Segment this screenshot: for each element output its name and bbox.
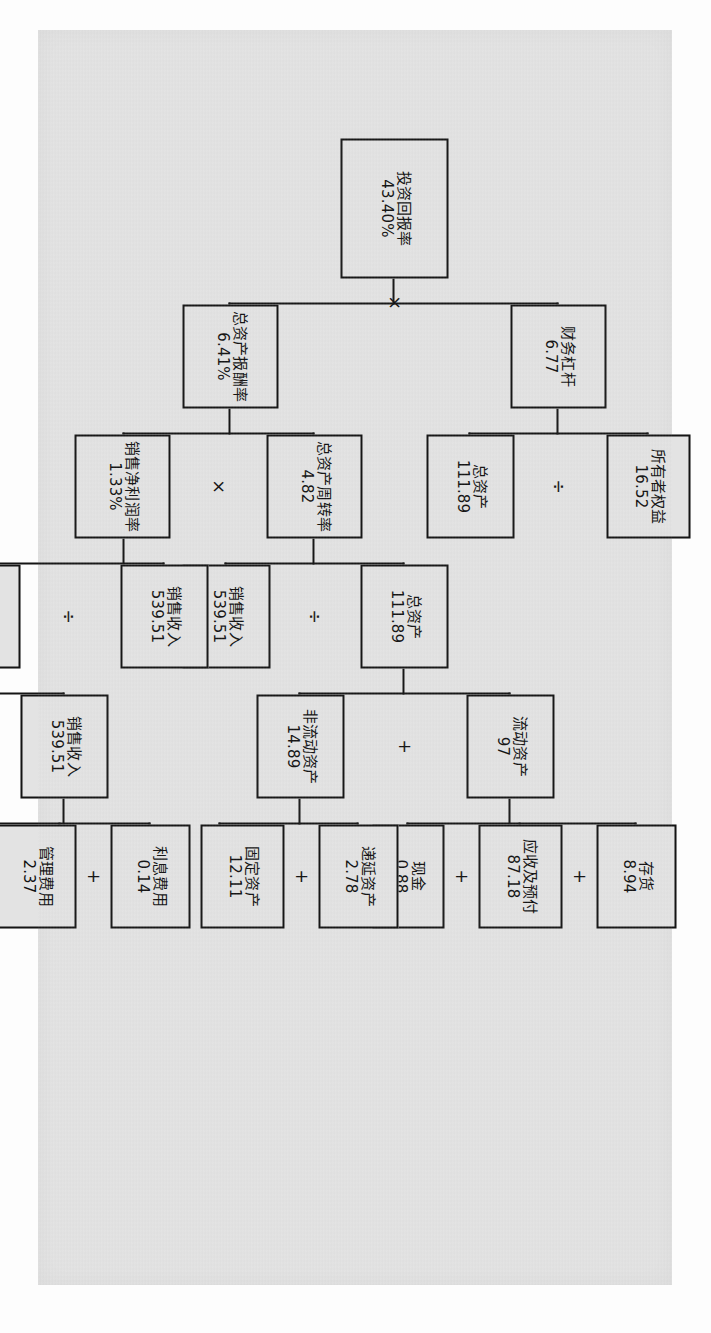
node-sales-revenue-turnover-value: 539.51	[209, 590, 226, 644]
node-total-assets-turnover[interactable]: 总资产 111.89	[361, 565, 449, 669]
node-asset-turnover[interactable]: 总资产周转率 4.82	[267, 435, 363, 539]
node-cash-label: 现金	[409, 861, 426, 891]
node-financial-leverage-value: 6.77	[541, 339, 558, 373]
node-inventory-label: 存货	[637, 861, 654, 891]
node-current-assets[interactable]: 流动资产 97	[467, 695, 555, 799]
node-sales-revenue-margin[interactable]: 销售收入 539.51	[121, 565, 209, 669]
node-return-on-assets-value: 6.41%	[213, 332, 230, 381]
node-current-assets-value: 97	[493, 737, 510, 757]
connector	[403, 669, 405, 695]
node-interest-expense-label: 利息费用	[151, 846, 168, 907]
node-roi-label: 投资回报率	[395, 171, 412, 247]
node-sales-revenue-margin-value: 539.51	[147, 590, 164, 644]
node-asset-turnover-value: 4.82	[297, 469, 314, 503]
node-fixed-assets-value: 12.11	[225, 855, 242, 899]
node-noncurrent-assets[interactable]: 非流动资产 14.89	[257, 695, 345, 799]
node-sales-revenue-margin-label: 销售收入	[165, 586, 182, 647]
operator-turnover-divide: ÷	[306, 608, 324, 626]
node-sales-revenue-turnover-label: 销售收入	[227, 586, 244, 647]
operator-leverage-divide: ÷	[550, 478, 568, 496]
dupont-diagram: 投资回报率 43.40% 财务杠杆 6.77 总资产报酬率 6.41% × 所有…	[77, 69, 711, 1324]
connector	[557, 409, 559, 435]
node-noncurrent-assets-value: 14.89	[283, 725, 300, 769]
node-return-on-assets[interactable]: 总资产报酬率 6.41%	[183, 305, 279, 409]
operator-noncurrent-plus: +	[293, 868, 311, 886]
node-owners-equity[interactable]: 所有者权益 16.52	[607, 435, 691, 539]
node-deferred-assets-value: 2.78	[341, 859, 358, 893]
node-fixed-assets[interactable]: 固定资产 12.11	[201, 825, 285, 929]
node-financial-leverage[interactable]: 财务杠杆 6.77	[511, 305, 607, 409]
page-canvas: 投资回报率 43.40% 财务杠杆 6.77 总资产报酬率 6.41% × 所有…	[0, 0, 711, 1333]
node-net-profit-margin[interactable]: 销售净利润率 1.33%	[75, 435, 171, 539]
node-net-profit-margin-label: 销售净利润率	[123, 441, 140, 532]
node-total-assets-leverage[interactable]: 总资产 111.89	[427, 435, 515, 539]
node-return-on-assets-label: 总资产报酬率	[231, 311, 248, 402]
node-net-profit-margin-value: 1.33%	[105, 462, 122, 511]
operator-cost-plus-1: +	[85, 868, 103, 886]
node-total-assets-turnover-value: 111.89	[387, 590, 404, 644]
node-owners-equity-value: 16.52	[631, 465, 648, 509]
node-financial-leverage-label: 财务杠杆	[559, 326, 576, 387]
node-receivables-prepayments[interactable]: 应收及预付 87.18	[479, 825, 563, 929]
node-interest-expense[interactable]: 利息费用 0.14	[111, 825, 191, 929]
node-total-assets-turnover-label: 总资产	[405, 594, 422, 640]
node-asset-turnover-label: 总资产周转率	[315, 441, 332, 532]
scanned-sheet: 投资回报率 43.40% 财务杠杆 6.77 总资产报酬率 6.41% × 所有…	[38, 30, 672, 1285]
node-administrative-expense-label: 管理费用	[37, 846, 54, 907]
node-total-assets-leverage-value: 111.89	[453, 460, 470, 514]
node-sales-revenue-profit[interactable]: 销售收入 539.51	[21, 695, 109, 799]
operator-current-plus-2: +	[453, 868, 471, 886]
node-receivables-prepayments-value: 87.18	[503, 855, 520, 899]
connector	[63, 799, 65, 825]
node-deferred-assets-label: 递延资产	[359, 846, 376, 907]
node-interest-expense-value: 0.14	[133, 859, 150, 893]
node-roi-value: 43.40%	[377, 179, 394, 237]
node-deferred-assets[interactable]: 递延资产 2.78	[319, 825, 399, 929]
node-fixed-assets-label: 固定资产	[243, 846, 260, 907]
node-after-tax-net-profit[interactable]: 税后净利润 7.18	[0, 565, 21, 669]
connector	[229, 409, 231, 435]
operator-roi-multiply: ×	[386, 294, 404, 312]
node-administrative-expense-value: 2.37	[19, 859, 36, 893]
node-administrative-expense[interactable]: 管理费用 2.37	[0, 825, 77, 929]
node-total-assets-leverage-label: 总资产	[471, 464, 488, 510]
node-roi[interactable]: 投资回报率 43.40%	[341, 139, 449, 279]
node-owners-equity-label: 所有者权益	[649, 449, 666, 525]
connector	[123, 539, 125, 565]
connector	[509, 799, 511, 825]
node-sales-revenue-profit-value: 539.51	[47, 720, 64, 774]
connector	[299, 799, 301, 825]
node-inventory-value: 8.94	[619, 859, 636, 893]
operator-assets-plus: +	[396, 738, 414, 756]
node-inventory[interactable]: 存货 8.94	[597, 825, 677, 929]
connector	[313, 539, 315, 565]
node-sales-revenue-profit-label: 销售收入	[65, 716, 82, 777]
operator-margin-divide: ÷	[60, 608, 78, 626]
operator-current-plus-1: +	[571, 868, 589, 886]
node-receivables-prepayments-label: 应收及预付	[521, 839, 538, 915]
node-current-assets-label: 流动资产	[511, 716, 528, 777]
operator-roa-multiply: ×	[210, 478, 228, 496]
node-noncurrent-assets-label: 非流动资产	[301, 709, 318, 785]
